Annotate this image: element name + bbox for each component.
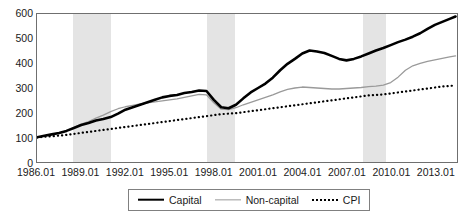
y-tick-label: 500 xyxy=(0,33,33,43)
line-chart-figure: 6005004003002001000 1986.011989.011992.0… xyxy=(0,0,469,224)
series-line-capital xyxy=(37,16,456,137)
x-tick-label: 1989.01 xyxy=(61,166,99,178)
x-tick-label: 2004.01 xyxy=(284,166,322,178)
x-tick-label: 1986.01 xyxy=(17,166,55,178)
y-axis: 6005004003002001000 xyxy=(0,0,33,180)
chart-legend: CapitalNon-capitalCPI xyxy=(128,189,370,211)
series-line-cpi xyxy=(37,85,456,137)
y-tick-label: 100 xyxy=(0,133,33,143)
y-tick-label: 300 xyxy=(0,83,33,93)
legend-entry: CPI xyxy=(312,195,361,206)
legend-swatch-capital-icon xyxy=(138,195,164,205)
x-tick-label: 2001.01 xyxy=(239,166,277,178)
legend-label: Non-capital xyxy=(246,195,299,206)
legend-entry: Non-capital xyxy=(215,195,299,206)
legend-swatch-cpi-icon xyxy=(312,195,338,205)
x-tick-label: 1995.01 xyxy=(150,166,188,178)
series-layer xyxy=(37,14,457,162)
x-tick-label: 1998.01 xyxy=(195,166,233,178)
legend-label: CPI xyxy=(343,195,361,206)
legend-entry: Capital xyxy=(138,195,202,206)
y-tick-label: 600 xyxy=(0,8,33,18)
x-tick-label: 2007.01 xyxy=(328,166,366,178)
legend-label: Capital xyxy=(169,195,202,206)
x-tick-label: 2013.01 xyxy=(417,166,455,178)
y-tick-label: 200 xyxy=(0,108,33,118)
y-tick-label: 400 xyxy=(0,58,33,68)
x-tick-label: 2010.01 xyxy=(372,166,410,178)
legend-swatch-non-capital-icon xyxy=(215,195,241,205)
plot-area xyxy=(36,13,458,163)
x-tick-label: 1992.01 xyxy=(106,166,144,178)
x-axis: 1986.011989.011992.011995.011998.012001.… xyxy=(0,166,469,182)
